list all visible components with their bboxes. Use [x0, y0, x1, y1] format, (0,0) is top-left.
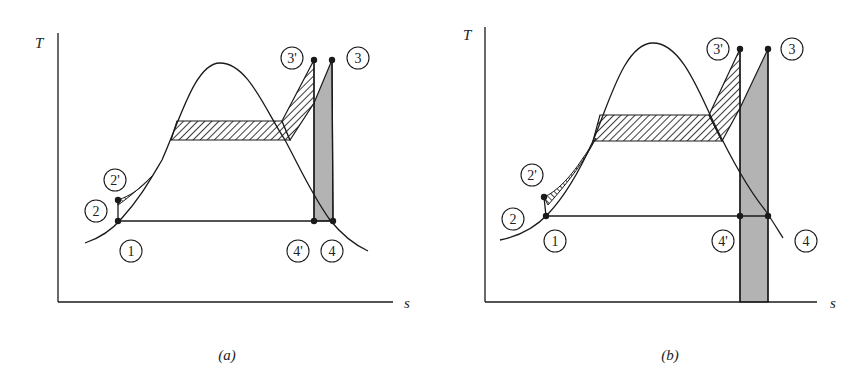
svg-text:4: 4	[803, 234, 810, 249]
shaded-work-area	[314, 60, 333, 221]
state-label-3: 3	[347, 47, 369, 69]
state-point-2p	[115, 197, 121, 203]
state-point-3	[329, 57, 335, 63]
svg-text:3: 3	[355, 51, 362, 66]
hatched-evaporation-band	[593, 115, 722, 141]
state-label-3p: 3'	[281, 47, 303, 69]
hatched-liquid-heating-region	[544, 138, 596, 205]
state-label-1: 1	[544, 230, 566, 252]
panel-caption-a: (a)	[218, 347, 236, 364]
state-label-2p: 2'	[521, 164, 543, 186]
svg-text:2: 2	[510, 212, 517, 227]
state-point-2p	[541, 194, 547, 200]
state-point-4p	[311, 218, 317, 224]
svg-text:3': 3'	[287, 51, 297, 66]
state-label-2: 2	[502, 208, 524, 230]
svg-text:2: 2	[93, 204, 100, 219]
svg-text:1: 1	[552, 234, 559, 249]
state-label-4p: 4'	[287, 240, 309, 262]
state-label-2: 2	[85, 200, 107, 222]
state-point-3	[765, 46, 771, 52]
state-point-1	[115, 218, 121, 224]
state-label-2p: 2'	[104, 169, 126, 191]
state-label-4: 4	[795, 230, 817, 252]
hatched-evaporation-band	[171, 121, 290, 140]
state-point-3p	[737, 46, 743, 52]
state-point-1	[543, 213, 549, 219]
panel-caption-b: (b)	[661, 347, 679, 364]
y-axis-label: T	[35, 35, 45, 51]
svg-text:4': 4'	[293, 244, 303, 259]
svg-text:4: 4	[329, 244, 336, 259]
state-point-4p	[737, 213, 743, 219]
state-point-4	[765, 213, 771, 219]
x-axis-label: s	[404, 295, 410, 311]
svg-text:1: 1	[128, 244, 135, 259]
state-label-3p: 3'	[707, 38, 729, 60]
x-axis-label: s	[830, 295, 836, 311]
panel-b: T s 3' 3 2' 2 1 4'	[463, 27, 836, 364]
figure-canvas: T s 3' 3 2' 2 1 4'	[0, 0, 867, 390]
panel-a: T s 3' 3 2' 2 1 4'	[35, 33, 410, 364]
state-label-1: 1	[120, 240, 142, 262]
state-point-4	[330, 218, 336, 224]
y-axis-label: T	[463, 27, 473, 43]
state-label-4: 4	[321, 240, 343, 262]
svg-text:2': 2'	[110, 173, 120, 188]
state-point-3p	[311, 57, 317, 63]
svg-text:2': 2'	[527, 168, 537, 183]
svg-text:4': 4'	[718, 234, 728, 249]
svg-text:3: 3	[789, 42, 796, 57]
hatched-superheat-region	[282, 60, 314, 140]
svg-text:3': 3'	[713, 42, 723, 57]
state-label-4p: 4'	[712, 230, 734, 252]
shaded-work-area	[740, 49, 768, 302]
state-label-3: 3	[781, 38, 803, 60]
